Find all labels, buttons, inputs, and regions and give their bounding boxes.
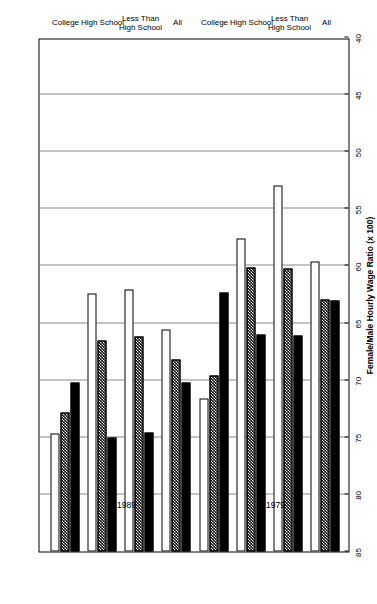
bar-detroit-1979-1 xyxy=(273,186,282,552)
bar-detroit-1989-3 xyxy=(50,433,59,551)
value-axis-tick-label: 60 xyxy=(353,262,362,271)
bar-detroit-1979-0 xyxy=(310,261,319,551)
axis-tick xyxy=(344,550,348,551)
bar-us-1989-1 xyxy=(134,336,143,551)
category-label: All xyxy=(172,18,181,27)
axis-tick xyxy=(344,322,348,323)
bar-us-1979-3 xyxy=(209,375,218,551)
bar-detroit-1989-2 xyxy=(87,293,96,551)
category-label: High School xyxy=(230,18,273,27)
axis-tick xyxy=(344,207,348,208)
bar-dallas-1989-0 xyxy=(181,382,190,551)
category-label: College xyxy=(52,18,79,27)
bar-us-1989-2 xyxy=(97,340,106,551)
value-axis-tick-label: 50 xyxy=(353,148,362,157)
bar-dallas-1979-1 xyxy=(293,335,302,551)
value-axis-title: Female/Male Hourly Wage Ratio (x 100) xyxy=(364,38,374,552)
category-label: Less ThanHigh School xyxy=(267,13,310,31)
value-axis-tick-label: 40 xyxy=(353,34,362,43)
period-label: 1979 xyxy=(265,499,284,509)
axis-tick xyxy=(344,93,348,94)
bar-dallas-1979-3 xyxy=(219,292,228,551)
bar-us-1979-0 xyxy=(320,299,329,551)
bar-detroit-1989-0 xyxy=(161,329,170,551)
gridline xyxy=(39,322,348,323)
value-axis-tick-label: 70 xyxy=(353,376,362,385)
bar-us-1979-2 xyxy=(246,267,255,551)
bar-dallas-1989-1 xyxy=(144,432,153,551)
plot-area xyxy=(38,38,349,552)
value-axis-tick-label: 85 xyxy=(353,548,362,557)
value-axis-tick-label: 45 xyxy=(353,91,362,100)
value-axis-tick-label: 80 xyxy=(353,490,362,499)
bar-us-1989-0 xyxy=(171,359,180,551)
axis-tick xyxy=(344,379,348,380)
value-axis-tick-label: 65 xyxy=(353,319,362,328)
gridline xyxy=(39,93,348,94)
chart-canvas: Dallas U.S. Detroit 85807570656055504540… xyxy=(0,0,377,604)
bar-dallas-1979-0 xyxy=(330,300,339,551)
bar-detroit-1979-2 xyxy=(236,238,245,551)
axis-tick xyxy=(344,436,348,437)
bar-detroit-1979-3 xyxy=(199,398,208,551)
bar-dallas-1989-3 xyxy=(70,382,79,551)
bar-dallas-1989-2 xyxy=(107,437,116,551)
category-label: College xyxy=(201,18,228,27)
chart-rotated-wrapper: Dallas U.S. Detroit 85807570656055504540… xyxy=(0,0,377,604)
bar-detroit-1989-1 xyxy=(124,289,133,551)
category-label: High School xyxy=(81,18,124,27)
value-axis-tick-label: 75 xyxy=(353,433,362,442)
axis-tick xyxy=(344,150,348,151)
gridline xyxy=(39,264,348,265)
bar-dallas-1979-2 xyxy=(256,334,265,551)
gridline xyxy=(39,207,348,208)
axis-tick xyxy=(344,264,348,265)
gridline xyxy=(39,150,348,151)
axis-tick xyxy=(344,36,348,37)
category-label: All xyxy=(321,18,330,27)
period-label: 1989 xyxy=(116,499,135,509)
bar-us-1989-3 xyxy=(60,412,69,551)
axis-tick xyxy=(344,493,348,494)
value-axis-tick-label: 55 xyxy=(353,205,362,214)
category-label: Less ThanHigh School xyxy=(118,13,161,31)
